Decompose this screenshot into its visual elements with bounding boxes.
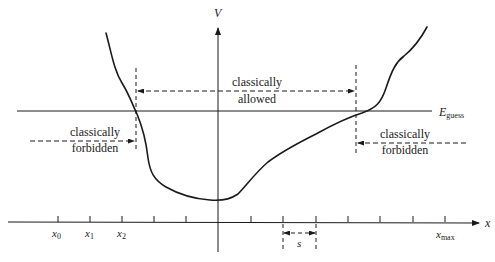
- x1-label: x1: [84, 227, 94, 241]
- x2-label: x2: [116, 227, 126, 241]
- potential-well-diagram: V x x0 x1 x2 xmax s Eguess classically a…: [0, 0, 495, 262]
- allowed-label-line1: classically: [232, 75, 282, 89]
- grid-ticks: [58, 216, 445, 222]
- potential-curve: [106, 27, 427, 200]
- step-size-indicator: s: [283, 224, 316, 252]
- allowed-label-line2: allowed: [238, 92, 276, 106]
- forbidden-right-label-line2: forbidden: [382, 143, 429, 157]
- v-axis-label: V: [214, 6, 223, 20]
- x-axis-label: x: [484, 216, 491, 230]
- x-axis: [8, 222, 479, 223]
- forbidden-right-label-line1: classically: [380, 127, 430, 141]
- forbidden-left-label-line1: classically: [70, 125, 120, 139]
- energy-guess-label: Eguess: [438, 105, 464, 120]
- step-label: s: [297, 237, 301, 249]
- x0-label: x0: [51, 227, 61, 241]
- forbidden-left-label-line2: forbidden: [72, 141, 119, 155]
- xmax-label: xmax: [435, 228, 455, 242]
